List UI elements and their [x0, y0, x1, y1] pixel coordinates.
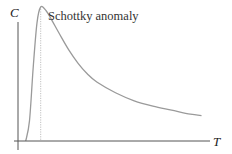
plot-area [26, 6, 202, 141]
y-axis-label: C [10, 5, 19, 20]
annotation-schottky-anomaly: Schottky anomaly [48, 9, 139, 23]
x-axis-label: T [213, 134, 221, 149]
series-line-0 [26, 6, 202, 141]
chart-canvas: C T Schottky anomaly [0, 0, 232, 154]
